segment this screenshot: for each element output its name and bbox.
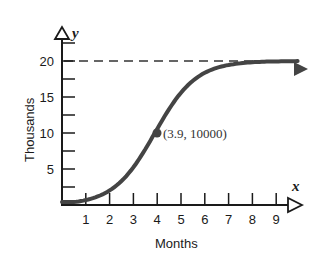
y-axis-ticks: 5101520: [40, 43, 75, 187]
inflection-point: [153, 129, 162, 138]
y-tick-label: 15: [40, 90, 54, 105]
x-tick-label: 5: [177, 212, 184, 227]
x-tick-label: 3: [130, 212, 137, 227]
x-variable-label: x: [291, 178, 300, 194]
x-axis-ticks: 123456789: [82, 193, 280, 227]
inflection-point-label: (3.9, 10000): [163, 126, 227, 141]
y-tick-label: 20: [40, 54, 54, 69]
y-tick-label: 5: [47, 162, 54, 177]
logistic-growth-chart: y x 5101520 123456789 Thousands Months (…: [0, 0, 321, 269]
x-tick-label: 6: [201, 212, 208, 227]
x-tick-label: 1: [82, 212, 89, 227]
y-tick-label: 10: [40, 126, 54, 141]
x-tick-label: 4: [154, 212, 161, 227]
x-tick-label: 2: [106, 212, 113, 227]
x-tick-label: 8: [249, 212, 256, 227]
curve-arrow-icon: [294, 62, 308, 76]
x-tick-label: 7: [225, 212, 232, 227]
x-tick-label: 9: [273, 212, 280, 227]
x-axis-title: Months: [155, 236, 198, 251]
x-axis-arrow-icon: [288, 198, 302, 212]
y-axis-arrow-icon: [55, 27, 69, 39]
y-axis-title: Thousands: [22, 97, 37, 162]
y-variable-label: y: [70, 25, 79, 41]
